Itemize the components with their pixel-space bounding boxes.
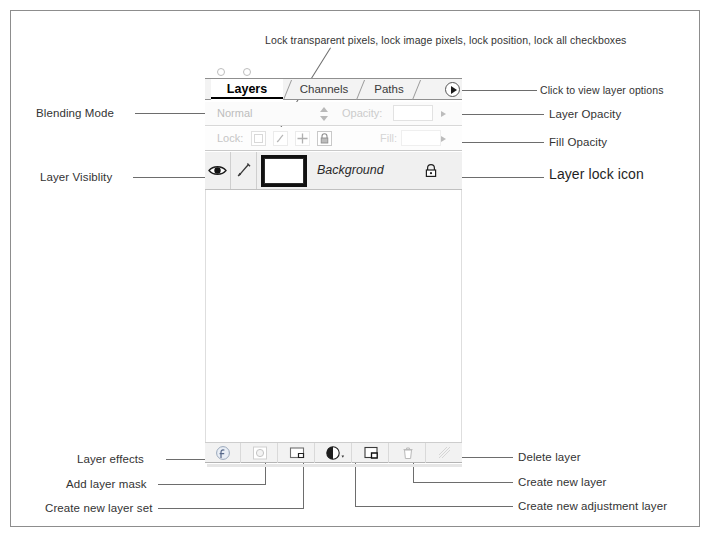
lock-transparent-pixels-checkbox[interactable] — [251, 131, 266, 146]
layer-effects-icon — [214, 445, 232, 461]
fill-slider-arrow-icon[interactable] — [441, 136, 446, 142]
tab-layers-underline — [211, 97, 283, 99]
annotation-create-new-layer: Create new layer — [518, 476, 607, 489]
layer-brush-indicator[interactable] — [231, 152, 257, 189]
palette-collapse-dots — [211, 66, 468, 78]
extra-button[interactable] — [427, 443, 463, 463]
opacity-label: Opacity: — [342, 107, 382, 119]
lock-all-checkbox[interactable] — [317, 131, 332, 146]
layer-mask-icon — [251, 445, 269, 461]
layer-row[interactable]: Background — [205, 152, 462, 190]
create-new-layer-button[interactable] — [353, 443, 389, 463]
tab-channels[interactable]: Channels — [291, 79, 357, 100]
annotation-delete-layer: Delete layer — [518, 451, 581, 464]
layer-lock-icon — [424, 163, 438, 178]
annotation-blending-mode: Blending Mode — [36, 107, 114, 120]
annotation-create-new-layer-set: Create new layer set — [45, 502, 152, 515]
opacity-slider-arrow-icon[interactable] — [441, 111, 446, 117]
leader-add-layer-mask-h — [158, 484, 265, 485]
palette-tab-strip: Layers Channels Paths — [205, 78, 462, 100]
fill-input[interactable] — [401, 130, 441, 146]
fill-label: Fill: — [380, 132, 397, 144]
leader-fill-opacity — [450, 142, 544, 143]
layer-effects-button[interactable] — [205, 443, 241, 463]
annotation-add-layer-mask: Add layer mask — [66, 478, 147, 491]
leader-layer-opacity — [450, 114, 544, 115]
blend-mode-select[interactable]: Normal — [217, 107, 252, 119]
leader-create-new-adjustment-layer-h — [355, 506, 513, 507]
trash-icon — [399, 445, 417, 461]
leader-create-new-layer-set-h — [158, 508, 303, 509]
layer-visibility-toggle[interactable] — [205, 152, 231, 189]
leader-view-layer-options — [462, 90, 537, 91]
half-circle-icon — [325, 445, 347, 461]
delete-layer-button[interactable] — [390, 443, 426, 463]
new-layer-icon — [362, 445, 380, 461]
layers-toolbar — [205, 442, 462, 463]
annotation-view-layer-options: Click to view layer options — [540, 84, 664, 97]
create-new-adjustment-layer-button[interactable] — [316, 443, 352, 463]
blend-mode-row: Normal Opacity: — [205, 102, 462, 126]
annotation-create-new-adjustment-layer: Create new adjustment layer — [518, 500, 667, 513]
annotation-layer-opacity: Layer Opacity — [549, 108, 621, 121]
annotation-fill-opacity: Fill Opacity — [549, 136, 607, 149]
annotation-layer-visibility: Layer Visiblity — [40, 171, 112, 184]
diagonal-lines-icon — [436, 445, 454, 461]
layers-list-area — [205, 190, 462, 442]
lock-image-pixels-checkbox[interactable] — [273, 131, 288, 146]
add-layer-mask-button[interactable] — [242, 443, 278, 463]
lock-label: Lock: — [217, 132, 243, 144]
tab-paths[interactable]: Paths — [364, 79, 414, 100]
opacity-input[interactable] — [393, 105, 433, 121]
layer-thumbnail[interactable] — [261, 155, 307, 187]
lock-row: Lock: Fill: — [205, 127, 462, 151]
lock-position-checkbox[interactable] — [295, 131, 310, 146]
create-new-layer-set-button[interactable] — [279, 443, 315, 463]
palette-dot-minimize[interactable] — [217, 68, 225, 76]
annotation-layer-lock-icon: Layer lock icon — [549, 168, 644, 181]
leader-layer-visibility — [133, 177, 215, 178]
annotation-lock-checkboxes: Lock transparent pixels, lock image pixe… — [265, 34, 626, 47]
palette-dot-close[interactable] — [243, 68, 251, 76]
folder-icon — [288, 445, 306, 461]
palette-drop-shadow — [207, 464, 462, 467]
leader-create-new-layer-h — [413, 482, 513, 483]
layers-palette: Layers Channels Paths Normal Opacity: Lo… — [205, 66, 462, 470]
layer-name[interactable]: Background — [317, 163, 384, 177]
layer-options-menu-button[interactable] — [445, 82, 460, 97]
blend-mode-stepper-icon[interactable] — [320, 106, 329, 122]
annotation-layer-effects: Layer effects — [77, 453, 144, 466]
